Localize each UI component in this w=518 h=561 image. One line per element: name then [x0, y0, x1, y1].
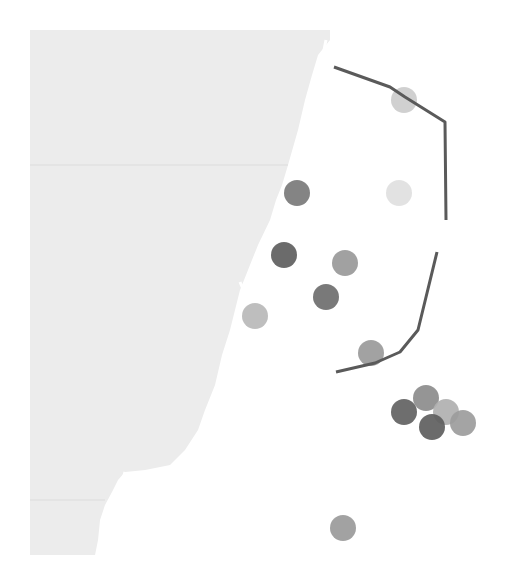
- marker-13[interactable]: [419, 414, 445, 440]
- marker-14[interactable]: [330, 515, 356, 541]
- marker-4[interactable]: [271, 242, 297, 268]
- marker-6[interactable]: [313, 284, 339, 310]
- marker-11[interactable]: [391, 399, 417, 425]
- marker-7[interactable]: [242, 303, 268, 329]
- marker-2[interactable]: [386, 180, 412, 206]
- marker-5[interactable]: [332, 250, 358, 276]
- marker-3[interactable]: [284, 180, 310, 206]
- marker-12[interactable]: [450, 410, 476, 436]
- map-canvas[interactable]: [0, 0, 518, 561]
